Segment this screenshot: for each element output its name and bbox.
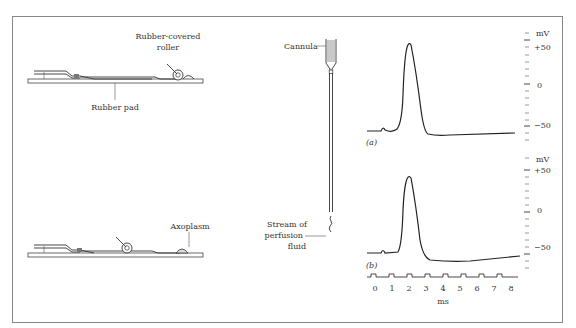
axoplasm-drop [176, 249, 188, 253]
x-tick-2: 2 [406, 284, 411, 293]
x-unit: ms [437, 297, 449, 306]
trace-a: (a) [366, 44, 515, 147]
x-tick-6: 6 [474, 284, 479, 293]
label-roller: roller [157, 43, 179, 52]
label-a: (a) [366, 138, 377, 147]
y-tick-b-0: 0 [537, 206, 542, 215]
action-potential-a [367, 44, 515, 136]
x-tick-7: 7 [491, 284, 496, 293]
x-tick-4: 4 [440, 284, 445, 293]
time-pulse-train [367, 274, 518, 277]
y-tick-a-0: 0 [537, 81, 542, 90]
label-stream-3: fluid [288, 242, 306, 251]
figure: Rubber-covered roller Rubber pad Axoplas… [0, 0, 576, 328]
x-tick-1: 1 [389, 284, 394, 293]
label-cannula: Cannula [284, 42, 318, 51]
rubber-pad-bottom [28, 253, 203, 257]
y-tick-a-plus50: +50 [534, 43, 551, 52]
fluid-stream [329, 216, 332, 232]
figure-frame [13, 17, 563, 323]
y-unit-b: mV [536, 155, 550, 164]
trace-b: (b) [366, 177, 520, 270]
roller-diagram-bottom: Axoplasm [28, 222, 210, 257]
y-tick-b-minus50: −50 [534, 243, 551, 252]
y-scale-b: mV +50 0 −50 [524, 155, 551, 268]
clamp-knot [74, 74, 79, 78]
label-b: (b) [366, 261, 377, 270]
x-tick-3: 3 [423, 284, 428, 293]
label-rubber-pad: Rubber pad [91, 103, 139, 112]
time-axis: 0 1 2 3 4 5 6 7 8 ms [367, 274, 518, 306]
label-stream-2: perfusion [265, 231, 303, 240]
x-tick-5: 5 [457, 284, 462, 293]
y-unit-a: mV [536, 29, 550, 38]
roller-diagram-top: Rubber-covered roller Rubber pad [28, 32, 203, 112]
y-scale-a: mV +50 0 −50 [524, 29, 551, 140]
label-stream-1: Stream of [267, 220, 308, 229]
label-axoplasm: Axoplasm [169, 222, 210, 231]
x-tick-8: 8 [508, 284, 513, 293]
cannula-fluid [327, 40, 335, 62]
action-potential-b [367, 177, 520, 262]
y-tick-a-minus50: −50 [534, 121, 551, 130]
label-rubber-covered-roller: Rubber-covered [136, 32, 201, 41]
y-tick-b-plus50: +50 [534, 166, 551, 175]
cannula-diagram: Cannula Stream of perfusion fluid [265, 39, 336, 251]
clamp-knot-bottom [77, 248, 82, 252]
x-tick-0: 0 [372, 284, 377, 293]
